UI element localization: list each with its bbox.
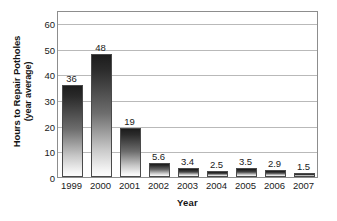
bar: [236, 168, 257, 177]
bar-chart-figure: Hours to Repair Potholes (year average) …: [0, 0, 337, 221]
y-tick-label: 10: [44, 147, 55, 158]
y-tick-label: 0: [50, 173, 55, 184]
bar: [207, 171, 228, 177]
x-tick-label: 2003: [177, 180, 198, 191]
y-tick-label: 20: [44, 121, 55, 132]
bars-layer: [58, 12, 317, 177]
bar: [91, 54, 112, 177]
y-axis-title-line1: Hours to Repair Potholes: [12, 35, 23, 147]
x-tick-label: 2006: [264, 180, 285, 191]
x-tick-label: 1999: [61, 180, 82, 191]
y-axis-tick-labels: 0102030405060: [33, 11, 57, 178]
bar: [178, 168, 199, 177]
bar: [265, 170, 286, 177]
x-axis-title: Year: [57, 197, 318, 208]
bar: [62, 85, 83, 177]
plot-area: [57, 11, 318, 178]
y-tick-label: 50: [44, 44, 55, 55]
bar: [120, 128, 141, 177]
bar: [149, 163, 170, 177]
x-tick-label: 2001: [119, 180, 140, 191]
x-tick-label: 2004: [206, 180, 227, 191]
y-tick-label: 60: [44, 18, 55, 29]
bar: [294, 173, 315, 177]
x-tick-label: 2005: [235, 180, 256, 191]
x-tick-label: 2007: [293, 180, 314, 191]
x-tick-label: 2002: [148, 180, 169, 191]
x-tick-label: 2000: [90, 180, 111, 191]
x-axis-tick-labels: 199920002001200220032004200520062007: [57, 180, 318, 194]
y-tick-label: 40: [44, 70, 55, 81]
y-tick-label: 30: [44, 95, 55, 106]
